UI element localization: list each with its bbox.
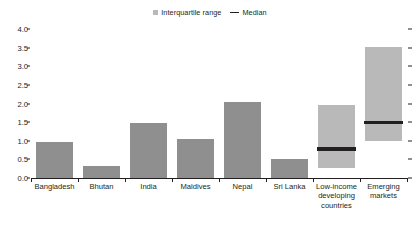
y-axis-tick-label: 0.5: [17, 155, 28, 164]
y-axis-tick-label: 4.0: [17, 25, 28, 34]
chart-category-slot: [78, 29, 125, 178]
y-axis-tick-label: 1.5: [17, 118, 28, 127]
chart-bar: [83, 166, 120, 178]
chart-bar: [177, 139, 214, 178]
chart-bar: [224, 102, 261, 178]
y-axis-tick-right: [408, 159, 412, 160]
chart-bar: [271, 159, 308, 178]
chart-iqr-box: [365, 47, 402, 141]
chart-category-slot: [313, 29, 360, 178]
y-axis-tick-right: [408, 47, 412, 48]
chart-bar: [130, 123, 167, 179]
plot-area: 0.00.51.01.52.02.53.03.54.0: [31, 29, 407, 178]
legend-item-interquartile-range: Interquartile range: [153, 8, 221, 17]
y-axis-tick-label: 1.0: [17, 136, 28, 145]
chart-category-slot: [31, 29, 78, 178]
y-axis-tick-right: [408, 178, 412, 179]
chart-category-slot: [125, 29, 172, 178]
chart-median-line: [317, 147, 356, 150]
y-axis-tick-right: [408, 29, 412, 30]
y-axis-tick-label: 2.0: [17, 99, 28, 108]
y-axis-tick-label: 3.0: [17, 62, 28, 71]
legend-label-median: Median: [242, 8, 266, 17]
x-axis-category-label: Maldives: [169, 182, 222, 191]
legend-swatch-iqr-icon: [153, 10, 158, 15]
chart-legend: Interquartile range Median: [0, 8, 420, 17]
x-axis-category-label: Sri Lanka: [263, 182, 316, 191]
chart-category-slot: [266, 29, 313, 178]
x-axis-category-label: Bhutan: [75, 182, 128, 191]
legend-label-interquartile-range: Interquartile range: [161, 8, 221, 17]
chart-category-slot: [219, 29, 266, 178]
x-axis-tick: [407, 178, 408, 182]
legend-item-median: Median: [230, 8, 266, 17]
y-axis-tick-right: [408, 103, 412, 104]
x-axis-category-label: Nepal: [216, 182, 269, 191]
chart-iqr-box: [318, 105, 355, 168]
y-axis-tick-right: [408, 84, 412, 85]
x-axis-category-label: Bangladesh: [28, 182, 81, 191]
x-axis-category-label: Low-income developing countries: [310, 182, 363, 210]
y-axis-tick-label: 2.5: [17, 80, 28, 89]
chart-bar: [36, 142, 73, 179]
chart-category-slot: [172, 29, 219, 178]
x-axis-line: [31, 178, 407, 179]
chart-median-line: [364, 121, 403, 124]
y-axis-tick-right: [408, 66, 412, 67]
chart-category-slot: [360, 29, 407, 178]
y-axis-tick-label: 3.5: [17, 43, 28, 52]
y-axis-tick-right: [408, 122, 412, 123]
y-axis-tick-right: [408, 140, 412, 141]
chart-container: Interquartile range Median 0.00.51.01.52…: [0, 0, 420, 231]
legend-swatch-median-icon: [230, 12, 239, 14]
x-axis-category-label: India: [122, 182, 175, 191]
x-axis-category-label: Emerging markets: [357, 182, 410, 201]
y-axis-tick-label: 0.0: [17, 174, 28, 183]
